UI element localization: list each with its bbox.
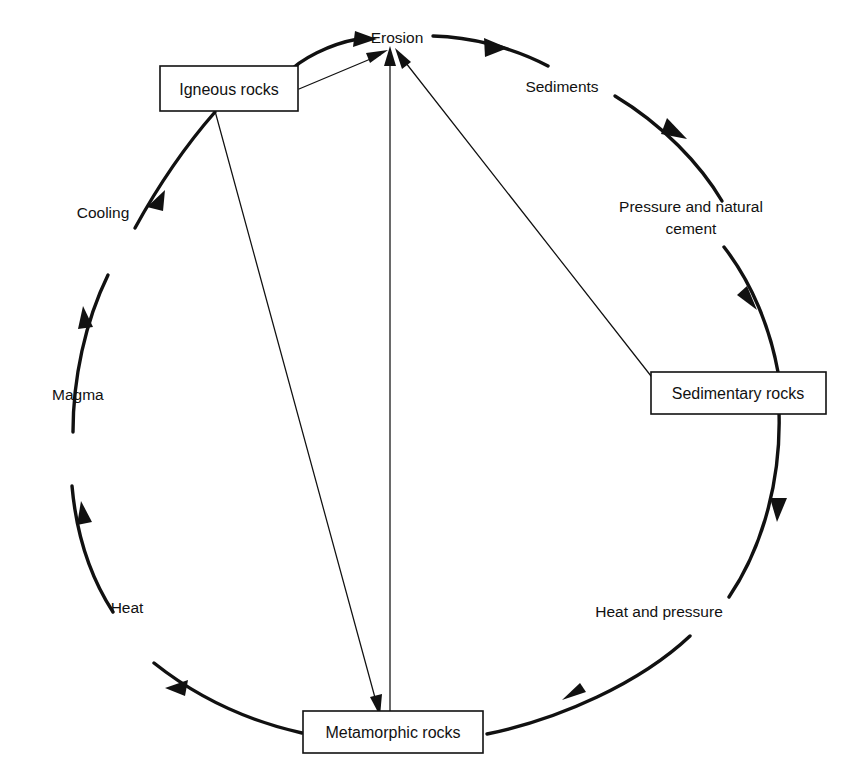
arc-erosion-to-sediments <box>433 36 548 66</box>
arc-metamorphic-to-heat <box>154 663 302 733</box>
arc-label-pressure-and-natural: Pressure and natural <box>619 198 763 215</box>
arc-label-heat-and-pressure: Heat and pressure <box>595 603 723 620</box>
arc-pressure-to-sedimentary <box>724 247 778 372</box>
node-label-igneous: Igneous rocks <box>179 81 279 98</box>
arc-sedimentary-to-heatpressure <box>729 412 787 597</box>
node-sedimentary-rocks[interactable]: Sedimentary rocks <box>651 372 826 414</box>
rock-cycle-figure: Igneous rocks Sedimentary rocks Metamorp… <box>0 0 859 779</box>
line-metamorphic-to-erosion <box>384 46 396 711</box>
arc-label-erosion: Erosion <box>371 29 424 46</box>
node-label-metamorphic: Metamorphic rocks <box>325 724 460 741</box>
arc-heatpressure-to-metamorphic <box>487 636 690 734</box>
arc-label-sediments: Sediments <box>525 78 598 95</box>
line-sedimentary-to-erosion <box>395 48 651 376</box>
line-igneous-to-metamorphic <box>215 111 382 716</box>
arc-sediments-to-pressure <box>615 96 722 201</box>
rock-cycle-svg: Igneous rocks Sedimentary rocks Metamorp… <box>0 0 859 779</box>
arc-label-heat: Heat <box>111 599 144 616</box>
arc-igneous-to-erosion <box>287 31 377 74</box>
node-igneous-rocks[interactable]: Igneous rocks <box>160 66 298 111</box>
arc-label-cement: cement <box>666 220 718 237</box>
arc-cooling-to-igneous <box>135 112 215 228</box>
arc-label-cooling: Cooling <box>77 204 130 221</box>
arc-label-magma: Magma <box>52 386 104 403</box>
node-label-sedimentary: Sedimentary rocks <box>672 385 805 402</box>
arc-magma-to-cooling <box>73 275 108 432</box>
node-metamorphic-rocks[interactable]: Metamorphic rocks <box>303 711 483 753</box>
arc-heat-to-magma <box>72 486 113 612</box>
